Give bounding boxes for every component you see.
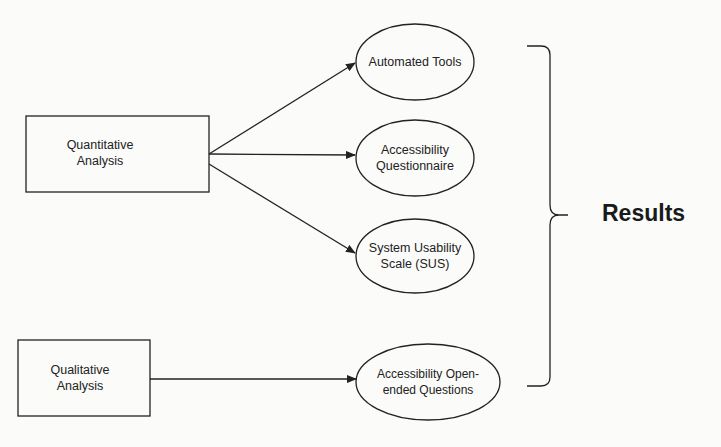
- label-line: Qualitative: [30, 362, 130, 378]
- label-line: System Usability: [356, 240, 474, 256]
- automated-tools-label: Automated Tools: [356, 54, 474, 70]
- arrow-quant-to-sus: [209, 164, 355, 253]
- qualitative-analysis-label: Qualitative Analysis: [30, 362, 130, 394]
- label-line: Quantitative: [40, 137, 160, 153]
- label-line: Analysis: [30, 378, 130, 394]
- quantitative-analysis-label: Quantitative Analysis: [40, 137, 160, 169]
- label-line: Accessibility Open-: [356, 366, 500, 382]
- label-line: ended Questions: [356, 382, 500, 398]
- sus-label: System Usability Scale (SUS): [356, 240, 474, 272]
- accessibility-questionnaire-label: Accessibility Questionnaire: [356, 142, 474, 174]
- label-line: Automated Tools: [356, 54, 474, 70]
- label-line: Analysis: [40, 153, 160, 169]
- label-line: Accessibility: [356, 142, 474, 158]
- open-ended-questions-label: Accessibility Open- ended Questions: [356, 366, 500, 398]
- label-line: Questionnaire: [356, 158, 474, 174]
- arrow-quant-to-automated: [209, 63, 355, 154]
- results-label: Results: [602, 200, 685, 227]
- results-bracket: [527, 46, 568, 386]
- arrow-quant-to-questionnaire: [209, 154, 355, 155]
- label-line: Scale (SUS): [356, 256, 474, 272]
